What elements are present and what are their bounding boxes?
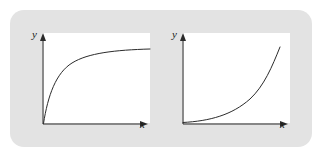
y-axis-arrowhead-right [180,33,186,41]
chart-panel-convex: y x [170,25,292,132]
figure-container: y x y x [0,0,322,157]
y-axis-label-left: y [32,29,37,40]
plot-panels: y x y x [0,0,322,157]
chart-panel-concave: y x [30,25,152,132]
chart-svg-left [30,25,152,132]
curve-concave [44,49,151,124]
curve-convex [183,47,280,123]
x-axis-label-right: x [280,119,285,130]
x-axis-label-left: x [140,119,145,130]
y-axis-arrowhead-left [40,33,46,41]
y-axis-label-right: y [172,29,177,40]
chart-svg-right [170,25,292,132]
